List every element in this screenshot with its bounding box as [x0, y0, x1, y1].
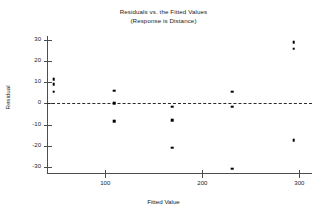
x-tick-mark — [105, 170, 106, 178]
y-tick-label: 0 — [23, 99, 41, 105]
data-point — [113, 120, 116, 123]
residual-plot: Residuals vs. the Fitted Values (Respons… — [0, 0, 327, 217]
zero-line — [47, 103, 312, 104]
data-point — [113, 90, 116, 93]
data-point — [292, 41, 295, 44]
data-point — [171, 105, 174, 108]
x-axis-line — [47, 173, 312, 174]
data-point — [171, 119, 174, 122]
data-point — [231, 105, 234, 108]
chart-title: Residuals vs. the Fitted Values — [0, 7, 327, 16]
y-tick-mark — [44, 82, 52, 83]
y-tick-label: 30 — [23, 36, 41, 42]
y-tick-label: 10 — [23, 78, 41, 84]
data-point — [113, 102, 116, 105]
x-tick-label: 200 — [197, 180, 207, 186]
plot-area: 3020100-10-20-30 100200300 — [47, 30, 313, 175]
y-axis-title: Residual — [4, 75, 11, 121]
data-point — [52, 78, 55, 81]
chart-title-block: Residuals vs. the Fitted Values (Respons… — [0, 7, 327, 25]
y-tick-mark — [44, 125, 52, 126]
x-axis-title: Fitted Value — [0, 198, 327, 205]
y-tick-label: 20 — [23, 57, 41, 63]
data-point — [292, 47, 295, 50]
data-point — [52, 91, 55, 94]
x-tick-mark — [202, 170, 203, 178]
y-tick-mark — [44, 167, 52, 168]
y-tick-mark — [44, 61, 52, 62]
x-tick-label: 100 — [100, 180, 110, 186]
data-point — [231, 91, 234, 94]
y-tick-label: -30 — [23, 163, 41, 169]
y-tick-label: -20 — [23, 142, 41, 148]
data-point — [292, 139, 295, 142]
x-tick-label: 300 — [294, 180, 304, 186]
x-tick-mark — [299, 170, 300, 178]
y-tick-mark — [44, 146, 52, 147]
y-tick-label: -10 — [23, 121, 41, 127]
y-tick-mark — [44, 40, 52, 41]
data-point — [231, 167, 234, 170]
data-point — [52, 83, 55, 86]
data-point — [171, 146, 174, 149]
y-axis-line — [47, 36, 48, 173]
chart-subtitle: (Response is Distance) — [0, 16, 327, 25]
